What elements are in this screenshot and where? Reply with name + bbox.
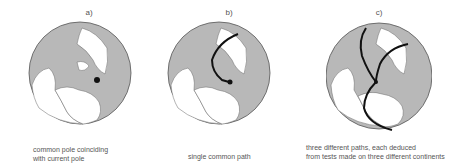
caption: three different paths, each deduced from… [306, 143, 445, 161]
globe-map [27, 20, 133, 126]
panel-label: a) [12, 8, 166, 17]
panel-label: c) [298, 8, 460, 17]
globe-map [166, 20, 272, 126]
caption: common pole coinciding with current pole [33, 145, 108, 163]
caption: single common path [188, 152, 251, 161]
globe-map [326, 20, 432, 132]
panel-label: b) [152, 8, 306, 17]
pole-dot [94, 77, 100, 83]
panel-a: a) common pole coinciding with current p… [0, 0, 154, 168]
panel-b: b) single common path [154, 0, 308, 168]
panel-c: c) three different paths, each deduced f… [300, 0, 462, 168]
